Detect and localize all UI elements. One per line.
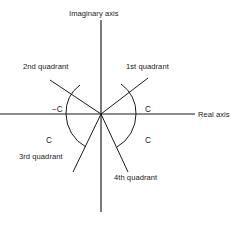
angle-arc-third-quadrant [66, 114, 86, 147]
quadrant-label-third: 3rd quadrant [19, 152, 64, 161]
quadrant-label-second: 2nd quadrant [23, 62, 69, 71]
diagram-canvas: Imaginary axis Real axis 2nd quadrant 1s… [0, 0, 243, 226]
ray-fourth-quadrant [101, 114, 128, 172]
angle-label-fourth-quadrant: C [145, 136, 151, 145]
ray-first-quadrant [101, 78, 148, 114]
real-axis-label: Real axis [198, 110, 230, 119]
imaginary-axis-label: Imaginary axis [69, 9, 119, 18]
angle-label-first-quadrant: C [145, 105, 151, 114]
quadrant-label-fourth: 4th quadrant [114, 173, 158, 182]
angle-label-second-quadrant: −C [52, 105, 63, 114]
ray-third-quadrant [73, 114, 101, 172]
angle-label-third-quadrant: C [46, 136, 52, 145]
quadrant-label-first: 1st quadrant [126, 62, 170, 71]
complex-plane-diagram: Imaginary axis Real axis 2nd quadrant 1s… [0, 0, 243, 226]
angle-arc-second-quadrant [66, 85, 80, 114]
angle-arc-fourth-quadrant [117, 114, 136, 147]
